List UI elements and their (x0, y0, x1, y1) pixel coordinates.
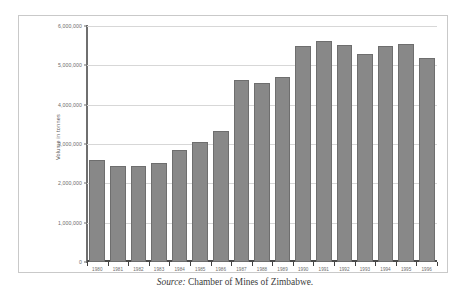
x-axis-tick-label: 1990 (298, 267, 308, 272)
y-axis-tick-label: 0 (79, 259, 82, 265)
x-axis-tick-mark (108, 262, 109, 266)
x-axis-tick-mark (128, 262, 129, 266)
x-axis-tick-mark (375, 262, 376, 266)
bar-1995 (398, 44, 414, 262)
bar-1980 (89, 160, 105, 262)
bar-1993 (357, 54, 373, 262)
x-axis-tick-label: 1986 (216, 267, 226, 272)
bar-1982 (131, 166, 147, 262)
gridline (87, 26, 437, 27)
x-axis-tick-label: 1981 (113, 267, 123, 272)
x-axis-tick-mark (313, 262, 314, 266)
x-axis-tick-mark (293, 262, 294, 266)
bar-1996 (419, 58, 435, 262)
x-axis-tick-mark (149, 262, 150, 266)
figure-caption: Source: Chamber of Mines of Zimbabwe. (0, 277, 470, 287)
bar-1986 (213, 131, 229, 262)
x-axis-tick-label: 1996 (421, 267, 431, 272)
x-axis-tick-mark (355, 262, 356, 266)
x-axis-tick-mark (396, 262, 397, 266)
x-axis-tick-mark (437, 262, 438, 266)
bar-1987 (234, 80, 250, 263)
x-axis-tick-mark (87, 262, 88, 266)
y-axis-tick-label: 4,000,000 (58, 102, 82, 108)
y-axis-title: Volume in tonnes (55, 77, 61, 197)
caption-source-label: Source: (157, 277, 186, 287)
plot-area (87, 26, 437, 262)
bar-1990 (295, 46, 311, 262)
x-axis-tick-label: 1994 (380, 267, 390, 272)
bar-1992 (337, 45, 353, 262)
x-axis-tick-mark (231, 262, 232, 266)
x-axis-tick-labels: 1980198119821983198419851986198719881989… (87, 262, 437, 276)
x-axis-tick-mark (272, 262, 273, 266)
x-axis-tick-label: 1995 (401, 267, 411, 272)
bar-1988 (254, 83, 270, 262)
y-axis-tick-label: 6,000,000 (58, 23, 82, 29)
y-axis-tick-label: 1,000,000 (58, 220, 82, 226)
x-axis-tick-label: 1982 (133, 267, 143, 272)
y-axis-tick-label: 3,000,000 (58, 141, 82, 147)
bar-1984 (172, 150, 188, 262)
figure-container: 01,000,0002,000,0003,000,0004,000,0005,0… (0, 0, 470, 296)
x-axis-tick-label: 1988 (257, 267, 267, 272)
bar-1989 (275, 77, 291, 262)
x-axis-tick-mark (169, 262, 170, 266)
bar-1991 (316, 41, 332, 262)
x-axis-tick-mark (334, 262, 335, 266)
x-axis-tick-mark (252, 262, 253, 266)
x-axis-tick-mark (416, 262, 417, 266)
bar-1994 (378, 46, 394, 262)
x-axis-tick-label: 1987 (236, 267, 246, 272)
bar-1981 (110, 166, 126, 262)
x-axis-tick-label: 1980 (92, 267, 102, 272)
x-axis-tick-label: 1993 (360, 267, 370, 272)
x-axis-tick-mark (190, 262, 191, 266)
y-axis-tick-label: 5,000,000 (58, 62, 82, 68)
x-axis-tick-mark (211, 262, 212, 266)
bar-1983 (151, 163, 167, 262)
x-axis-tick-label: 1984 (174, 267, 184, 272)
y-axis-title-wrapper: Volume in tonnes (20, 26, 34, 262)
x-axis-tick-label: 1991 (319, 267, 329, 272)
x-axis-tick-label: 1985 (195, 267, 205, 272)
y-axis-tick-label: 2,000,000 (58, 180, 82, 186)
x-axis-tick-label: 1992 (339, 267, 349, 272)
caption-source-text: Chamber of Mines of Zimbabwe. (188, 277, 313, 287)
x-axis-tick-label: 1989 (277, 267, 287, 272)
x-axis-tick-label: 1983 (154, 267, 164, 272)
bar-1985 (192, 142, 208, 262)
